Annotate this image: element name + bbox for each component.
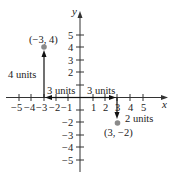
annotation-2-units: 2 units: [125, 113, 153, 124]
y-tick-label: 2: [68, 67, 73, 78]
y-tick-label: −3: [62, 130, 73, 141]
y-tick-label: 3: [68, 55, 73, 66]
point-label: (−3, 4): [29, 34, 58, 46]
up-arrowhead-icon: [42, 50, 47, 57]
x-axis-label: x: [161, 98, 167, 110]
y-axis-label: y: [71, 5, 77, 17]
x-tick-label: −1: [61, 102, 72, 113]
down-arrowhead-icon: [115, 112, 120, 119]
y-tick-label: −4: [62, 142, 74, 153]
x-tick-label: −3: [36, 102, 47, 113]
x-tick-label: 4: [128, 102, 134, 113]
y-tick-label: 5: [68, 30, 73, 41]
x-tick-label: −5: [11, 102, 22, 113]
y-tick-label: −5: [62, 155, 73, 166]
point-neg3-4: [41, 44, 47, 50]
annotation-right-3-units: 3 units: [87, 85, 115, 96]
x-tick-label: 3: [115, 102, 120, 113]
x-tick-label: 1: [91, 102, 96, 113]
point-label: (3, −2): [104, 127, 133, 139]
coordinate-plane: x y −5 −4 −3 −2 −1 1 2 3 4 5 5 4 3 2 −2: [0, 0, 178, 179]
x-tick-label: 5: [141, 102, 146, 113]
point-3-neg2: [115, 120, 121, 126]
x-tick-label: −2: [49, 102, 60, 113]
x-tick-label: −4: [24, 102, 36, 113]
annotation-left-3-units: 3 units: [47, 85, 75, 96]
y-axis-arrow-icon: [78, 11, 83, 18]
x-tick-label: 2: [103, 102, 108, 113]
y-tick-label: −2: [62, 117, 73, 128]
y-tick-label: 4: [68, 42, 74, 53]
annotation-4-units: 4 units: [8, 69, 36, 80]
